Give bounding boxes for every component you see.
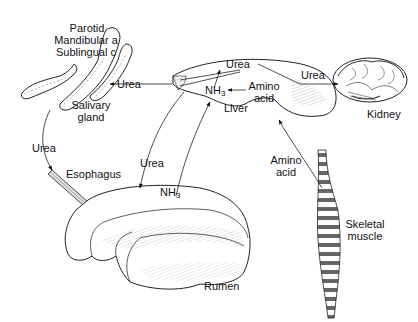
label-kidney: Kidney bbox=[367, 108, 401, 120]
label-mandibular: Mandibular a bbox=[43, 34, 129, 46]
label-urea-saliva: Urea bbox=[32, 142, 56, 154]
label-salivary-line2: gland bbox=[66, 111, 116, 123]
nh3-rumen-text: NH bbox=[160, 186, 176, 198]
arrow-urea-to-rumen bbox=[140, 92, 184, 188]
kidney-drawing bbox=[333, 58, 407, 102]
label-urea-to-salivary: Urea bbox=[117, 78, 141, 90]
arrow-nh3-rumen-to-liver bbox=[176, 102, 210, 196]
label-urea-to-rumen: Urea bbox=[140, 157, 164, 169]
label-urea-liver: Urea bbox=[226, 58, 250, 70]
label-esophagus: Esophagus bbox=[66, 168, 121, 180]
label-nh3-liver: NH3 bbox=[205, 84, 225, 98]
label-skeletal-line2: muscle bbox=[340, 230, 390, 242]
label-amino-muscle-line2: acid bbox=[266, 166, 306, 178]
label-rumen: Rumen bbox=[204, 280, 239, 292]
label-nh3-rumen: NH3 bbox=[160, 186, 180, 200]
nh3-liver-text: NH bbox=[205, 84, 221, 96]
label-urea-to-kidney: Urea bbox=[301, 69, 325, 81]
label-parotid: Parotid bbox=[57, 22, 117, 34]
label-amino-liver-line2: acid bbox=[244, 92, 284, 104]
label-amino-muscle-line1: Amino bbox=[266, 154, 306, 166]
nh3-liver-subscript: 3 bbox=[221, 89, 225, 98]
label-liver: Liver bbox=[224, 102, 248, 114]
label-salivary-line1: Salivary bbox=[66, 99, 116, 111]
label-sublingual: Sublingual c bbox=[43, 46, 129, 58]
rumen-drawing bbox=[65, 185, 250, 289]
nh3-rumen-subscript: 3 bbox=[176, 191, 180, 200]
skeletal-muscle-drawing bbox=[317, 150, 340, 318]
label-skeletal-line1: Skeletal bbox=[340, 218, 390, 230]
arrow-saliva-to-esophagus bbox=[43, 110, 52, 170]
label-amino-liver-line1: Amino bbox=[244, 80, 284, 92]
